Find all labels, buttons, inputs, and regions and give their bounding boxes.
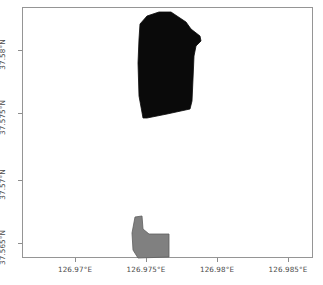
geometry-layer xyxy=(23,8,314,259)
polygon-upper xyxy=(138,12,201,118)
x-tick-label-2: 126.98°E xyxy=(200,265,234,274)
x-tick-mark-0 xyxy=(75,258,76,262)
y-tick-label-3: 37.565°N xyxy=(0,230,7,265)
y-tick-label-1: 37.575°N xyxy=(0,100,7,135)
y-tick-label-0: 37.58°N xyxy=(0,39,7,69)
x-tick-label-0: 126.97°E xyxy=(58,265,92,274)
x-tick-mark-1 xyxy=(146,258,147,262)
x-tick-mark-2 xyxy=(217,258,218,262)
x-tick-label-1: 126.975°E xyxy=(127,265,166,274)
x-tick-mark-3 xyxy=(288,258,289,262)
x-tick-label-3: 126.985°E xyxy=(269,265,308,274)
y-tick-mark-2 xyxy=(18,180,22,181)
plot-frame xyxy=(22,7,313,258)
y-tick-mark-0 xyxy=(18,50,22,51)
y-tick-mark-1 xyxy=(18,113,22,114)
map-figure: 126.97°E126.975°E126.98°E126.985°E 37.58… xyxy=(0,0,323,285)
y-tick-label-2: 37.57°N xyxy=(0,169,7,199)
polygon-lower xyxy=(132,216,169,258)
y-tick-mark-3 xyxy=(18,243,22,244)
